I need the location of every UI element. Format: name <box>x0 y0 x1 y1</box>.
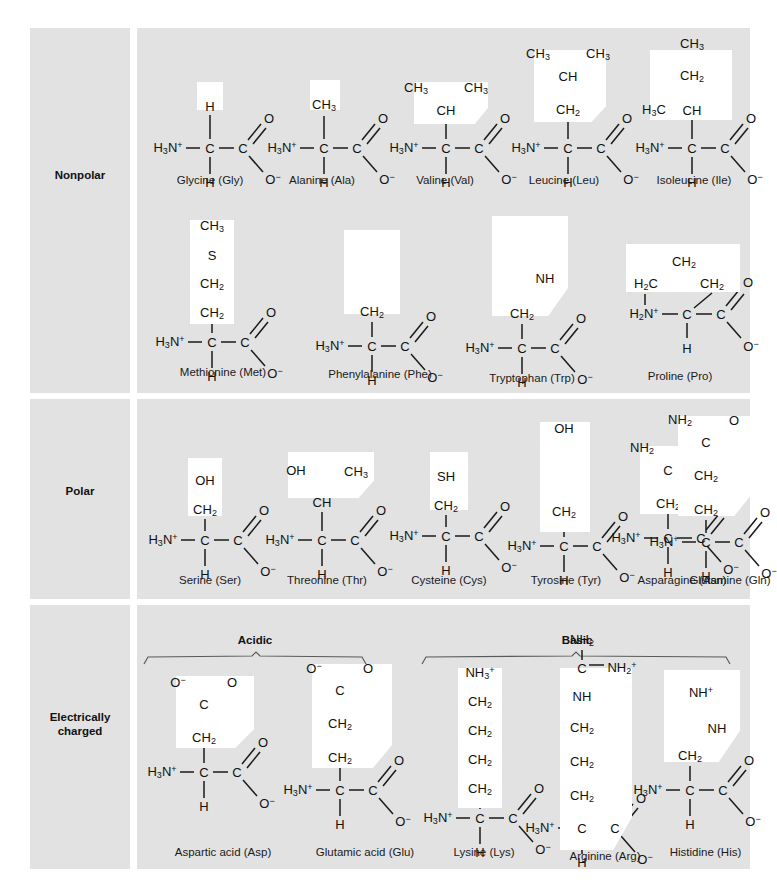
amino-group: H3N+ <box>611 530 640 546</box>
carbonyl-oxygen: O <box>576 311 586 326</box>
amino-acid-phe: H3N+CHCOO−CH2Phenylalanine (Phe) <box>300 228 460 384</box>
alpha-hydrogen: H <box>335 817 344 832</box>
carboxyl-carbon: C <box>232 765 241 780</box>
carboxyl-carbon: C <box>596 141 605 156</box>
carboxylate-oxygen: O− <box>743 339 758 354</box>
side-chain-atom: CH <box>437 103 456 118</box>
amino-group: H3N+ <box>649 534 678 550</box>
side-chain-atom: CH3 <box>680 36 704 52</box>
alpha-carbon: C <box>367 339 376 354</box>
amino-group: H3N+ <box>147 764 176 780</box>
amino-acid-name-gln: Glutamine (Gln) <box>689 574 770 586</box>
carboxyl-carbon: C <box>350 533 359 548</box>
side-chain-atom: C <box>701 435 710 450</box>
carboxylate-oxygen: O− <box>745 814 760 829</box>
alpha-carbon: C <box>199 765 208 780</box>
side-chain-atom: CH2 <box>570 788 594 804</box>
side-chain-atom: C <box>577 661 586 676</box>
carbonyl-oxygen: O <box>743 275 753 290</box>
side-chain-atom: CH2 <box>468 694 492 710</box>
side-chain-atom: CH2 <box>200 305 224 321</box>
amino-acid-name-lys: Lysine (Lys) <box>453 846 514 858</box>
side-chain-atom: NH+ <box>689 685 713 700</box>
carbonyl-oxygen: O <box>376 503 386 518</box>
alpha-hydrogen: H <box>199 799 208 814</box>
alpha-carbon: C <box>335 783 344 798</box>
side-chain-atom: NH2 <box>668 412 692 428</box>
side-chain-atom: CH2 <box>570 720 594 736</box>
amino-acid-val: H3N+CHCOO−CHCH3CH3Valine (Val) <box>380 58 510 190</box>
alpha-carbon: C <box>441 141 450 156</box>
side-chain-atom: CH2 <box>672 254 696 270</box>
side-chain-atom: CH2 <box>694 502 718 518</box>
amino-acid-name-asp: Aspartic acid (Asp) <box>175 846 272 858</box>
alpha-carbon: C <box>200 533 209 548</box>
amino-acid-thr: H3N+CHCOO−CHOHCH3Threonine (Thr) <box>262 432 392 590</box>
amino-acid-name-pro: Proline (Pro) <box>648 370 713 382</box>
amino-acid-glu: H3N+CHCOO−CH2CH2COO−Glutamic acid (Glu) <box>290 660 440 862</box>
amino-acid-his: H3N+CHCOO−CH2NH+NHHistidine (His) <box>648 672 763 862</box>
amino-acid-name-arg: Arginine (Arg) <box>570 850 641 862</box>
amino-acid-name-gly: Glycine (Gly) <box>177 174 243 186</box>
carboxyl-carbon: C <box>400 339 409 354</box>
side-chain-atom: CH2 <box>200 276 224 292</box>
amino-group: H3N+ <box>315 338 344 354</box>
amino-acid-name-cys: Cysteine (Cys) <box>411 574 486 586</box>
carbonyl-oxygen: O <box>746 111 756 126</box>
side-chain-atom: OH <box>286 463 306 478</box>
side-chain-atom: CH2 <box>360 304 384 320</box>
side-chain-atom: CH2 <box>656 496 680 512</box>
side-chain-atom: H <box>205 99 214 114</box>
r-group-highlight-trp <box>492 216 568 316</box>
r-group-highlight-phe <box>344 230 400 314</box>
alpha-carbon: C <box>205 141 214 156</box>
amino-group: H3N+ <box>265 532 294 548</box>
alpha-carbon: C <box>317 533 326 548</box>
side-chain-atom: NH <box>573 689 592 704</box>
side-chain-atom: CH2 <box>468 723 492 739</box>
amino-acid-name-val: Valine (Val) <box>416 174 474 186</box>
amino-acid-trp: H3N+CHCOO−CH2NHTryptophan (Trp) <box>452 216 612 388</box>
side-chain-atom: NH <box>708 721 727 736</box>
side-chain-atom: O <box>227 675 237 690</box>
amino-group: H3N+ <box>283 782 312 798</box>
carboxylate-oxygen: O− <box>395 814 410 829</box>
amino-group: H3N+ <box>423 810 452 826</box>
amino-group: H3N+ <box>635 140 664 156</box>
alpha-carbon: C <box>687 141 696 156</box>
amino-acid-name-tyr: Tyrosine (Tyr) <box>531 574 601 586</box>
side-chain-atom: CH2 <box>678 748 702 764</box>
carbonyl-oxygen: O <box>266 305 276 320</box>
side-chain-atom: CH3 <box>464 80 488 96</box>
carboxyl-carbon: C <box>592 539 601 554</box>
carboxyl-carbon: C <box>508 811 517 826</box>
amino-group: H3N+ <box>507 538 536 554</box>
alpha-hydrogen: H <box>682 341 691 356</box>
alpha-carbon: C <box>685 783 694 798</box>
side-chain-atom: NH <box>536 271 555 286</box>
alpha-carbon: C <box>517 341 526 356</box>
side-chain-atom: CH2 <box>556 102 580 118</box>
side-chain-atom: CH2 <box>192 730 216 746</box>
side-chain-atom: CH3 <box>586 46 610 62</box>
carbonyl-oxygen: O <box>760 505 770 520</box>
alpha-carbon: C <box>207 335 216 350</box>
side-chain-atom: O− <box>170 675 185 690</box>
amino-acid-gly: H3N+CHCOO−HGlycine (Gly) <box>150 70 270 190</box>
alpha-carbon: C <box>577 821 586 836</box>
amino-group: H3N+ <box>511 140 540 156</box>
side-chain-atom: CH2 <box>468 752 492 768</box>
category-panel-nonpolar: Nonpolar <box>30 28 130 393</box>
side-chain-atom: NH2+ <box>607 660 636 676</box>
carbonyl-oxygen: O <box>394 753 404 768</box>
amino-acid-asp: H3N+CHCOO−CH2COO−Aspartic acid (Asp) <box>150 672 296 862</box>
alpha-carbon: C <box>559 539 568 554</box>
side-chain-atom: CH2 <box>434 498 458 514</box>
amino-group: H3N+ <box>389 140 418 156</box>
side-chain-atom: CH <box>683 103 702 118</box>
carbonyl-oxygen: O <box>258 735 268 750</box>
amino-group: H3N+ <box>465 340 494 356</box>
amino-group: H3N+ <box>155 334 184 350</box>
side-chain-atom: O <box>729 413 739 428</box>
carboxyl-carbon: C <box>233 533 242 548</box>
